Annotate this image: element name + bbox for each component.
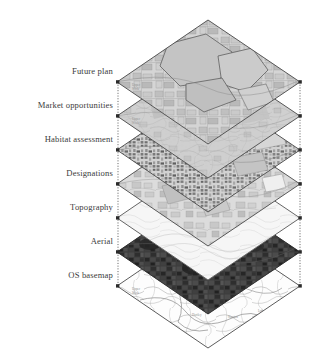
layered-map-diagram: Upper Wick Hartley Stanton Lyde — [0, 0, 321, 356]
map-layer-stack: Upper Wick Hartley Stanton Lyde — [0, 0, 321, 356]
layer-label-topography: Topography — [70, 203, 113, 212]
svg-text:Hartley: Hartley — [192, 313, 202, 317]
vertex-marker — [298, 284, 301, 287]
vertex-marker — [116, 250, 119, 253]
layer-label-habitat-assessment: Habitat assessment — [45, 135, 113, 144]
layer-label-os-basemap: OS basemap — [68, 271, 113, 280]
layer-label-aerial: Aerial — [91, 237, 113, 246]
vertex-marker — [298, 148, 301, 151]
layer-label-market-opportunities: Market opportunities — [38, 101, 113, 110]
vertex-marker — [116, 284, 119, 287]
vertex-marker — [116, 148, 119, 151]
svg-text:Stanton: Stanton — [228, 315, 238, 319]
svg-text:Wick: Wick — [132, 121, 139, 125]
vertex-marker — [116, 80, 119, 83]
svg-text:Wick: Wick — [132, 87, 139, 91]
vertex-marker — [298, 216, 301, 219]
vertex-marker — [298, 182, 301, 185]
svg-text:Wick: Wick — [132, 291, 139, 295]
vertex-marker — [298, 114, 301, 117]
vertex-marker — [298, 80, 301, 83]
layer-label-designations: Designations — [66, 169, 113, 178]
vertex-marker — [116, 216, 119, 219]
vertex-marker — [298, 250, 301, 253]
layer-label-future-plan: Future plan — [72, 67, 113, 76]
vertex-marker — [116, 182, 119, 185]
vertex-marker — [116, 114, 119, 117]
